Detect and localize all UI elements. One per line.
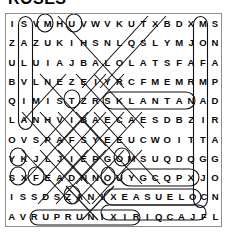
grid-cell[interactable]: R	[113, 72, 125, 91]
grid-cell[interactable]: J	[185, 33, 197, 52]
grid-cell[interactable]: E	[102, 110, 114, 129]
grid-cell[interactable]: U	[74, 207, 85, 226]
grid-cell[interactable]: I	[97, 207, 108, 226]
grid-cell[interactable]: E	[137, 110, 149, 129]
grid-cell[interactable]: B	[173, 110, 185, 129]
grid-cell[interactable]: N	[102, 33, 114, 52]
grid-cell[interactable]: R	[29, 207, 40, 226]
grid-cell[interactable]: D	[173, 14, 185, 33]
grid-cell[interactable]: M	[197, 72, 209, 91]
grid-cell[interactable]: I	[66, 33, 78, 52]
grid-cell[interactable]: D	[66, 168, 78, 187]
grid-cell[interactable]: P	[209, 72, 221, 91]
grid-cell[interactable]: A	[137, 53, 149, 72]
grid-cell[interactable]: S	[102, 91, 114, 110]
grid-cell[interactable]: I	[42, 53, 54, 72]
grid-cell[interactable]: F	[66, 130, 78, 149]
grid-cell[interactable]: F	[173, 226, 185, 227]
grid-cell[interactable]: G	[137, 168, 149, 187]
grid-cell[interactable]: F	[137, 72, 149, 91]
grid-cell[interactable]: S	[30, 226, 42, 227]
grid-cell[interactable]: Y	[125, 168, 137, 187]
grid-cell[interactable]: R	[90, 91, 102, 110]
grid-cell[interactable]: T	[161, 91, 173, 110]
grid-cell[interactable]: V	[78, 14, 90, 33]
grid-cell[interactable]: K	[113, 14, 125, 33]
grid-cell[interactable]: A	[137, 91, 149, 110]
grid-cell[interactable]: L	[113, 33, 125, 52]
grid-cell[interactable]: F	[198, 207, 209, 226]
grid-cell[interactable]: O	[113, 53, 125, 72]
grid-cell[interactable]: S	[6, 168, 18, 187]
grid-cell[interactable]: M	[149, 72, 161, 91]
grid-cell[interactable]: P	[173, 168, 185, 187]
grid-cell[interactable]: S	[29, 187, 40, 206]
grid-cell[interactable]: N	[85, 207, 96, 226]
grid-cell[interactable]: L	[30, 72, 42, 91]
grid-cell[interactable]: T	[66, 91, 78, 110]
grid-cell[interactable]: O	[66, 226, 78, 227]
grid-cell[interactable]: Y	[102, 72, 114, 91]
grid-cell[interactable]: V	[17, 207, 28, 226]
grid-cell[interactable]: L	[210, 207, 221, 226]
grid-cell[interactable]: E	[102, 130, 114, 149]
grid-cell[interactable]: A	[54, 168, 66, 187]
grid-cell[interactable]: E	[119, 187, 130, 206]
grid-cell[interactable]: O	[161, 130, 173, 149]
grid-cell[interactable]: N	[209, 33, 221, 52]
grid-cell[interactable]: V	[209, 226, 221, 227]
grid-cell[interactable]: O	[187, 187, 198, 206]
grid-cell[interactable]: J	[66, 53, 78, 72]
grid-cell[interactable]: D	[40, 187, 51, 206]
grid-cell[interactable]: X	[108, 187, 119, 206]
grid-cell[interactable]: D	[209, 91, 221, 110]
grid-cell[interactable]: C	[113, 110, 125, 129]
grid-cell[interactable]: L	[125, 53, 137, 72]
grid-cell[interactable]: I	[97, 187, 108, 206]
grid-cell[interactable]: N	[78, 168, 90, 187]
grid-cell[interactable]: S	[149, 110, 161, 129]
grid-cell[interactable]: A	[74, 187, 85, 206]
grid-cell[interactable]: A	[176, 207, 187, 226]
grid-cell[interactable]: U	[149, 149, 161, 168]
grid-cell[interactable]: L	[42, 149, 54, 168]
grid-cell[interactable]: A	[54, 130, 66, 149]
grid-cell[interactable]: T	[90, 226, 102, 227]
grid-cell[interactable]: X	[18, 168, 30, 187]
grid-cell[interactable]: O	[113, 149, 125, 168]
grid-cell[interactable]: S	[54, 91, 66, 110]
grid-cell[interactable]: B	[161, 14, 173, 33]
grid-cell[interactable]: N	[185, 91, 197, 110]
grid-cell[interactable]: A	[185, 53, 197, 72]
grid-cell[interactable]: R	[185, 72, 197, 91]
grid-cell[interactable]: N	[90, 168, 102, 187]
grid-cell[interactable]: M	[173, 33, 185, 52]
grid-cell[interactable]: I	[6, 187, 17, 206]
grid-cell[interactable]: Z	[161, 226, 173, 227]
grid-cell[interactable]: A	[173, 91, 185, 110]
grid-cell[interactable]: U	[66, 14, 78, 33]
grid-cell[interactable]: A	[78, 226, 90, 227]
grid-cell[interactable]: U	[125, 130, 137, 149]
grid-cell[interactable]: V	[102, 14, 114, 33]
grid-cell[interactable]: P	[51, 207, 62, 226]
grid-cell[interactable]: E	[164, 187, 175, 206]
grid-cell[interactable]: Z	[30, 33, 42, 52]
grid-cell[interactable]: S	[142, 187, 153, 206]
grid-cell[interactable]: Y	[90, 130, 102, 149]
grid-cell[interactable]: H	[42, 110, 54, 129]
grid-cell[interactable]: J	[125, 226, 137, 227]
grid-cell[interactable]: S	[51, 187, 62, 206]
grid-cell[interactable]: L	[6, 110, 18, 129]
grid-cell[interactable]: I	[6, 14, 18, 33]
grid-cell[interactable]: E	[54, 72, 66, 91]
grid-cell[interactable]: E	[78, 149, 90, 168]
grid-cell[interactable]: Z	[63, 187, 74, 206]
grid-cell[interactable]: W	[90, 14, 102, 33]
grid-cell[interactable]: S	[78, 130, 90, 149]
grid-cell[interactable]: U	[153, 187, 164, 206]
grid-cell[interactable]: Y	[6, 149, 18, 168]
grid-cell[interactable]: H	[54, 14, 66, 33]
grid-cell[interactable]: Q	[153, 207, 164, 226]
grid-cell[interactable]: A	[209, 53, 221, 72]
